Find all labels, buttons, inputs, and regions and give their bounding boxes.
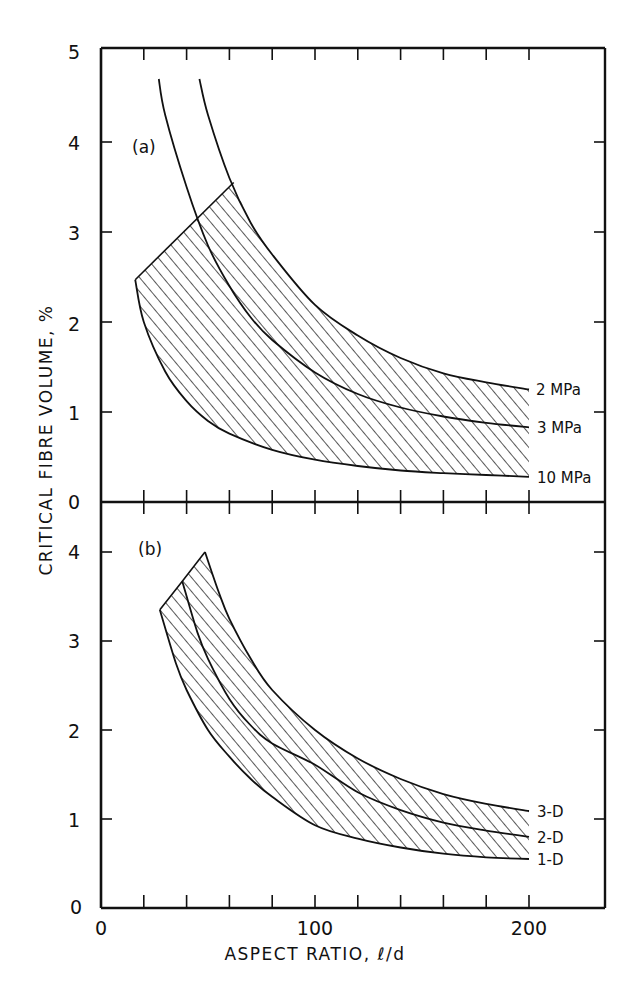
y-tick-labels-b: 0 1 2 3 4 [68,541,82,918]
series-label-2d: 2-D [537,829,564,847]
ytick-a-1: 1 [68,402,80,424]
ytick-a-0: 0 [68,491,80,513]
series-label-1d: 1-D [537,851,564,869]
x-tick-labels: 0 100 200 [95,917,547,939]
series-label-3mpa: 3 MPa [537,419,582,437]
y-tick-labels-a: 0 1 2 3 4 5 [68,41,80,513]
panel-label-b: (b) [138,539,162,559]
ytick-b-1: 1 [68,809,80,831]
ytick-b-0: 0 [70,896,82,918]
y-axis-title: CRITICAL FIBRE VOLUME, % [36,304,56,575]
critical-fibre-volume-chart: 0 1 2 3 4 5 0 1 2 3 4 0 100 200 ASPECT R… [0,0,643,1000]
ytick-b-2: 2 [68,720,80,742]
ytick-a-2: 2 [68,313,80,335]
series-label-10mpa: 10 MPa [537,469,591,487]
series-label-3d: 3-D [537,803,564,821]
ytick-b-3: 3 [68,630,80,652]
xtick-100: 100 [297,917,333,939]
ytick-a-3: 3 [68,222,80,244]
xtick-0: 0 [95,917,107,939]
ytick-a-5: 5 [68,41,80,63]
xtick-200: 200 [511,917,547,939]
hatched-band-a [135,183,529,477]
series-label-2mpa: 2 MPa [536,381,581,399]
panel-label-a: (a) [132,137,156,157]
hatched-band-b [160,552,529,859]
ytick-b-4: 4 [68,541,80,563]
x-axis-title: ASPECT RATIO, ℓ/d [224,944,405,964]
ytick-a-4: 4 [68,132,80,154]
